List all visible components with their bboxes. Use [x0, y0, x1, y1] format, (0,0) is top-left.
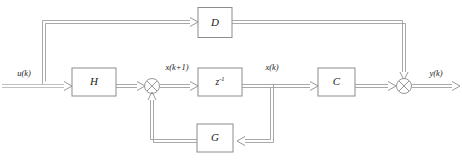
diagram-canvas: D u(k) H: [0, 0, 462, 160]
block-g-label: G: [211, 131, 219, 143]
wire-h-to-sum1: [116, 85, 137, 88]
arrowhead-h-input: [64, 82, 72, 91]
wire-delay-to-c: [242, 85, 310, 88]
signal-label-x: x(k): [264, 62, 278, 72]
arrowhead-output: [452, 82, 460, 91]
block-d-label: D: [210, 16, 219, 28]
block-diagram: D u(k) H: [0, 0, 462, 160]
arrowhead-d-input: [190, 18, 198, 27]
signal-label-x-next: x(k+1): [164, 62, 188, 72]
wire-g-to-sum1: [151, 100, 198, 143]
arrowhead-g-input: [237, 137, 245, 146]
wire-sum1-to-delay: [160, 85, 190, 88]
signal-label-u: u(k): [17, 68, 31, 78]
wire-output-y: [412, 85, 452, 88]
arrowhead-sum1-left: [137, 82, 145, 91]
wire-c-to-sum2: [355, 85, 388, 88]
wire-d-to-sum2: [232, 21, 406, 73]
block-h-label: H: [89, 75, 99, 87]
arrowhead-delay-input: [190, 82, 198, 91]
wire-input-u: [2, 85, 64, 88]
wire-x-to-g: [245, 85, 274, 143]
summing-junction-output: [397, 79, 412, 94]
signal-label-y: y(k): [428, 68, 442, 78]
block-unit-delay-shape: [198, 68, 242, 96]
arrowhead-c-input: [310, 82, 318, 91]
block-c-label: C: [333, 75, 341, 87]
arrowhead-sum2-left: [388, 82, 396, 91]
